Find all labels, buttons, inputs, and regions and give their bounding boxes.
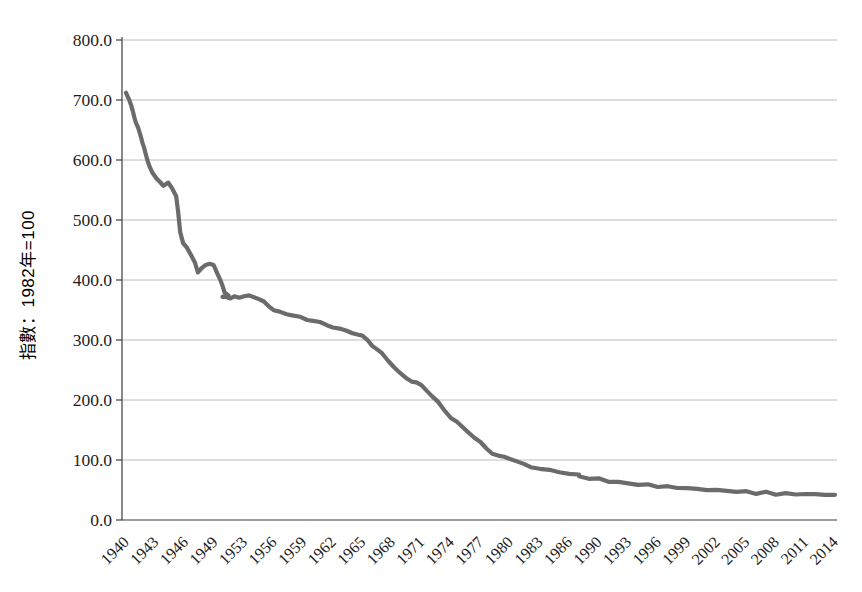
- y-tick-label: 800.0: [73, 30, 113, 50]
- y-tick-label: 100.0: [73, 450, 113, 470]
- x-tick-labels: 1940194319461949195319561959196219651968…: [97, 533, 841, 568]
- x-tick-label: 1956: [245, 533, 280, 568]
- line-chart-figure: 0.0100.0200.0300.0400.0500.0600.0700.080…: [0, 0, 862, 592]
- x-tick-label: 1977: [452, 533, 487, 568]
- x-tick-label: 1996: [629, 533, 664, 568]
- x-tick-label: 1971: [393, 533, 428, 568]
- x-tick-label: 2008: [747, 533, 782, 568]
- x-tick-label: 1999: [659, 533, 694, 568]
- y-tick-label: 600.0: [73, 150, 113, 170]
- x-tick-label: 1993: [600, 533, 635, 568]
- x-tick-label: 1968: [363, 533, 398, 568]
- x-tick-label: 2002: [688, 533, 723, 568]
- x-tick-label: 1962: [304, 533, 339, 568]
- chart-canvas: 0.0100.0200.0300.0400.0500.0600.0700.080…: [0, 0, 862, 592]
- y-tick-label: 500.0: [73, 210, 113, 230]
- series-index-line: [126, 93, 835, 495]
- axes: [116, 37, 837, 520]
- x-tick-label: 1990: [570, 533, 605, 568]
- x-tick-label: 1974: [422, 533, 457, 568]
- y-tick-label: 300.0: [73, 330, 113, 350]
- y-gridlines: [122, 40, 837, 460]
- data-series: [126, 93, 835, 495]
- x-tick-label: 1946: [157, 533, 192, 568]
- x-tick-label: 1940: [97, 533, 132, 568]
- x-tick-label: 1983: [511, 533, 546, 568]
- x-tick-label: 1959: [275, 533, 310, 568]
- x-tick-label: 2014: [806, 533, 841, 568]
- x-tick-label: 1953: [216, 533, 251, 568]
- y-tick-label: 400.0: [73, 270, 113, 290]
- x-tick-label: 2005: [718, 533, 753, 568]
- y-axis-title: 指數：1982年=100: [19, 210, 38, 360]
- y-tick-labels: 0.0100.0200.0300.0400.0500.0600.0700.080…: [73, 30, 113, 530]
- x-tick-label: 1943: [127, 533, 162, 568]
- y-tick-label: 200.0: [73, 390, 113, 410]
- y-tick-label: 0.0: [90, 510, 112, 530]
- x-tick-label: 1949: [186, 533, 221, 568]
- x-tick-label: 1980: [481, 533, 516, 568]
- x-tick-label: 1986: [541, 533, 576, 568]
- y-tick-label: 700.0: [73, 90, 113, 110]
- x-tick-label: 1965: [334, 533, 369, 568]
- x-tick-label: 2011: [777, 533, 811, 567]
